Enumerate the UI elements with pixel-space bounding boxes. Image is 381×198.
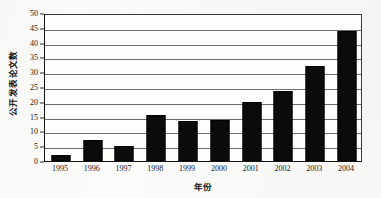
x-axis-tick-label: 1999	[179, 164, 195, 174]
bar[interactable]	[210, 120, 229, 161]
bar[interactable]	[115, 146, 134, 161]
bar[interactable]	[274, 91, 293, 161]
y-axis-tick-label: 10	[30, 128, 38, 136]
x-axis-tick-label: 1997	[116, 164, 132, 174]
bar[interactable]	[51, 155, 70, 161]
bar[interactable]	[179, 121, 198, 161]
x-axis-tick-label: 2000	[211, 164, 227, 174]
bar-slot	[331, 15, 363, 161]
x-axis-tick-label: 1998	[147, 164, 163, 174]
x-axis-tick-label: 2004	[338, 164, 354, 174]
x-axis-tick-label: 2003	[306, 164, 322, 174]
x-axis-tick-label: 2002	[275, 164, 291, 174]
y-axis-tick-label: 30	[30, 69, 38, 77]
x-axis-tick-label: 1996	[84, 164, 100, 174]
bar-slot	[77, 15, 109, 161]
bar-series	[45, 15, 361, 161]
bar-slot	[140, 15, 172, 161]
bar-slot	[299, 15, 331, 161]
y-axis-ticks: 05101520253035404550	[0, 14, 44, 162]
bar-slot	[172, 15, 204, 161]
y-axis-tick-label: 40	[30, 40, 38, 48]
y-axis-tick-label: 0	[34, 158, 38, 166]
bar[interactable]	[83, 140, 102, 161]
y-axis-tick-label: 50	[30, 10, 38, 18]
bar[interactable]	[306, 66, 325, 161]
bar-slot	[236, 15, 268, 161]
y-axis-tick-label: 5	[34, 143, 38, 151]
chart-figure: 公开发表论文数 05101520253035404550 19951996199…	[0, 0, 381, 198]
y-axis-tick-label: 25	[30, 84, 38, 92]
y-axis-tick-label: 45	[30, 25, 38, 33]
plot-area	[44, 14, 362, 162]
y-axis-tick-label: 20	[30, 99, 38, 107]
bar[interactable]	[338, 31, 357, 161]
x-axis-tick-label: 1995	[52, 164, 68, 174]
bar-slot	[268, 15, 300, 161]
x-axis-tick-label: 2001	[243, 164, 259, 174]
bar-slot	[45, 15, 77, 161]
x-axis-ticks: 1995199619971998199920002001200220032004	[44, 164, 362, 180]
x-axis-title: 年份	[44, 180, 362, 192]
bar[interactable]	[242, 102, 261, 161]
bar-slot	[204, 15, 236, 161]
y-axis-tick-label: 35	[30, 54, 38, 62]
bar-slot	[109, 15, 141, 161]
bar[interactable]	[147, 115, 166, 161]
y-axis-tick-label: 15	[30, 114, 38, 122]
